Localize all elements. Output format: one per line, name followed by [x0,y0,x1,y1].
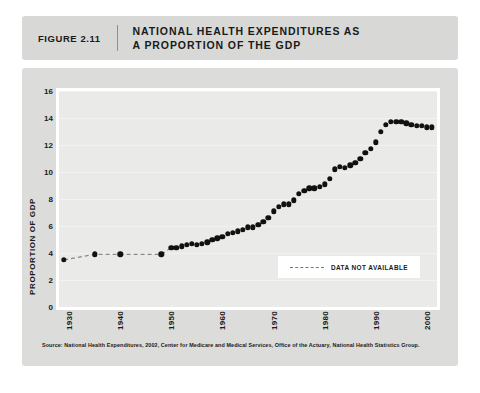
y-tick-label: 8 [49,195,53,204]
y-tick-label: 4 [49,249,53,258]
y-tick-label: 12 [44,141,53,150]
figure-number: FIGURE 2.11 [38,33,101,44]
y-tick-label: 16 [44,87,53,96]
figure-title: NATIONAL HEALTH EXPENDITURES AS A PROPOR… [133,24,361,52]
y-tick-label: 14 [44,114,53,123]
x-tick-text: 1970 [269,311,278,330]
header-divider [117,25,118,51]
figure-title-line-1: NATIONAL HEALTH EXPENDITURES AS [133,24,361,38]
y-tick-label: 0 [49,303,53,312]
x-tick-label: 1950 [167,311,176,330]
figure-header: FIGURE 2.11 NATIONAL HEALTH EXPENDITURES… [22,16,458,60]
figure-page: FIGURE 2.11 NATIONAL HEALTH EXPENDITURES… [0,0,480,393]
x-tick-label: 1980 [320,311,329,330]
y-axis-label: PROPORTION OF GDP [28,198,37,295]
x-tick-label: 1990 [371,311,380,330]
dashed-line-icon [290,267,324,268]
figure-title-line-2-prefix: A PROPORTION OF THE [133,39,276,51]
x-tick-text: 2000 [422,311,431,330]
chart-legend: DATA NOT AVAILABLE [278,256,420,278]
y-tick-label: 6 [49,222,53,231]
x-tick-text: 1950 [167,311,176,330]
x-tick-label: 1970 [269,311,278,330]
figure-title-gdp: GDP [276,39,301,51]
x-tick-text: 1960 [218,311,227,330]
x-tick-text: 1940 [116,311,125,330]
x-tick-text: 1980 [320,311,329,330]
x-tick-label: 1930 [65,311,74,330]
chart-card: PROPORTION OF GDP 0246810121416193019401… [22,68,458,366]
x-tick-label: 1940 [116,311,125,330]
legend-label: DATA NOT AVAILABLE [331,264,408,271]
x-tick-label: 2000 [422,311,431,330]
y-tick-label: 2 [49,276,53,285]
x-tick-text: 1990 [371,311,380,330]
x-tick-text: 1930 [65,311,74,330]
source-note: Source: National Health Expenditures, 20… [42,342,420,348]
x-tick-label: 1960 [218,311,227,330]
figure-title-line-2: A PROPORTION OF THE GDP [133,38,361,52]
y-tick-label: 10 [44,168,53,177]
